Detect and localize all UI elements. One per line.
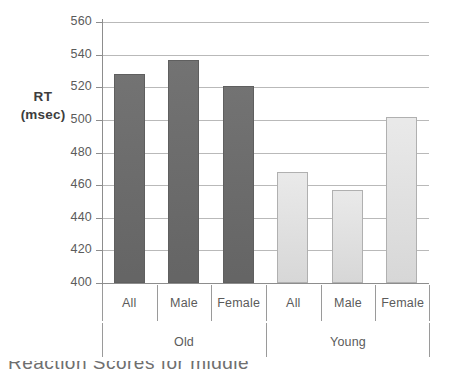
caption-fragment-text: Reaction Scores for middle bbox=[8, 361, 449, 374]
bar-young-all bbox=[277, 172, 308, 283]
y-tick-label-440: 440 bbox=[56, 210, 92, 224]
group-label-young: Young bbox=[266, 323, 430, 361]
bar-chart-figure: RT (msec) 560540520500480460440420400 Al… bbox=[0, 0, 449, 381]
group-label-old: Old bbox=[102, 323, 266, 361]
bar-old-all bbox=[114, 74, 145, 283]
plot-area bbox=[102, 22, 429, 283]
category-label-1-male: Male bbox=[157, 283, 212, 323]
bar-old-female bbox=[223, 86, 254, 283]
y-tick-label-480: 480 bbox=[56, 145, 92, 159]
bar-young-female bbox=[386, 117, 417, 283]
category-label-4-male: Male bbox=[321, 283, 376, 323]
bars-layer bbox=[102, 22, 429, 283]
x-axis-category-table: AllMaleFemaleAllMaleFemale OldYoung bbox=[102, 283, 430, 361]
category-label-3-all: All bbox=[266, 283, 321, 323]
category-label-0-all: All bbox=[102, 283, 157, 323]
category-label-row: AllMaleFemaleAllMaleFemale bbox=[102, 283, 430, 323]
category-label-2-female: Female bbox=[211, 283, 266, 323]
bar-young-male bbox=[332, 190, 363, 283]
y-tick-label-420: 420 bbox=[56, 242, 92, 256]
bar-old-male bbox=[168, 60, 199, 283]
y-tick-label-520: 520 bbox=[56, 79, 92, 93]
y-tick-label-500: 500 bbox=[56, 112, 92, 126]
y-tick-label-560: 560 bbox=[56, 14, 92, 28]
y-tick-label-400: 400 bbox=[56, 275, 92, 289]
caption-fragment: Reaction Scores for middle bbox=[8, 361, 449, 381]
y-tick-label-540: 540 bbox=[56, 47, 92, 61]
category-label-5-female: Female bbox=[375, 283, 430, 323]
group-label-row: OldYoung bbox=[102, 323, 430, 361]
y-tick-label-460: 460 bbox=[56, 177, 92, 191]
